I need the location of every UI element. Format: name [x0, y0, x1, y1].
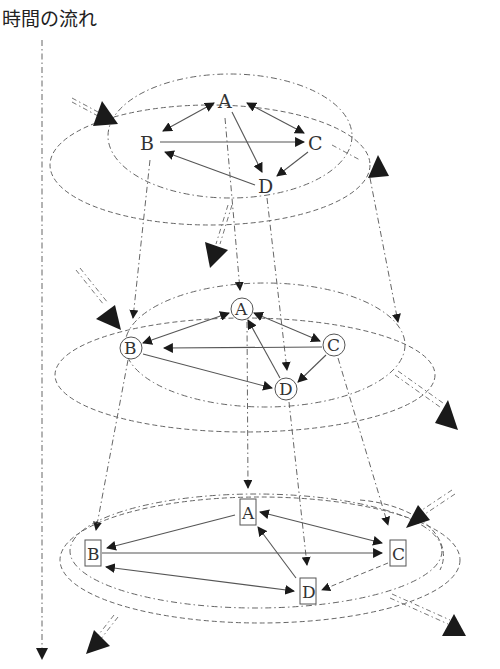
layer2-node-a: A — [234, 299, 248, 319]
layer1-node-d: D — [258, 175, 273, 197]
layer1-external-flows — [72, 98, 389, 268]
layer1-node-c: C — [308, 132, 323, 154]
network-evolution-diagram: A B C D A B C D — [0, 0, 500, 669]
layer1-node-b: B — [140, 132, 154, 154]
layer2-node-c: C — [327, 335, 340, 355]
layer2-node-d: D — [279, 379, 293, 399]
time-axis-arrow — [36, 40, 48, 660]
layer1-node-a: A — [217, 90, 232, 112]
layer-1: A B C D — [50, 74, 370, 225]
layer3-node-c: C — [392, 544, 405, 564]
layer3-node-d: D — [302, 582, 316, 602]
inter-layer-links-2-3 — [96, 322, 388, 565]
layer-2: A B C D — [55, 283, 435, 432]
layer3-node-a: A — [241, 503, 255, 523]
layer3-node-b: B — [87, 544, 100, 564]
layer2-node-b: B — [124, 338, 137, 358]
layer-3: A B C D — [60, 494, 460, 623]
